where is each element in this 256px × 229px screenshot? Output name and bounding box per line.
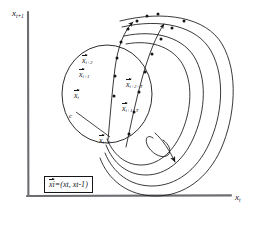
label-x-i-plus-2-plus-T: xi+2+T (126, 79, 142, 90)
y-axis-label: xt+1 (12, 9, 24, 19)
figure-canvas: xt+1 xt xi+2 xi+1 xi xi+2+T xi+1+T xi+T … (0, 0, 256, 229)
label-x-i: xi (74, 90, 79, 101)
label-x-i-plus-2: xi+2 (82, 55, 92, 66)
radius-line (76, 112, 110, 137)
label-x-i-plus-1: xi+1 (79, 69, 89, 80)
state-space-drawing (0, 0, 256, 229)
trajectory-points (113, 13, 186, 136)
label-x-i-plus-T: xi+T (99, 135, 110, 146)
boxed-equation: xi=(xt, xt-1) (44, 176, 93, 193)
x-axis-label: xt (235, 193, 240, 203)
label-x-i-plus-1-plus-T: xi+1+T (122, 103, 138, 114)
flow-direction-arrow (146, 133, 175, 162)
label-epsilon-radius: c (69, 113, 72, 120)
